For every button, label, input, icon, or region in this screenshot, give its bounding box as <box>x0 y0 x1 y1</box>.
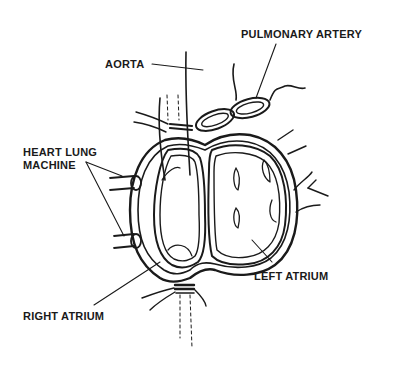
label-aorta: AORTA <box>105 58 144 70</box>
left-atrium-chamber <box>208 145 286 264</box>
label-heart-lung-line2: MACHINE <box>23 159 76 171</box>
label-pulmonary-artery: PULMONARY ARTERY <box>241 28 362 40</box>
heart-diagram: PULMONARY ARTERY AORTA HEART LUNG MACHIN… <box>0 0 398 366</box>
pulmonary-artery-rings <box>193 64 305 135</box>
leader-lines <box>86 44 276 305</box>
right-atrium-chamber <box>154 149 205 267</box>
aorta-vessel <box>159 52 192 180</box>
label-heart-lung-line1: HEART LUNG <box>23 146 97 158</box>
upper-left-vessels <box>134 112 168 132</box>
label-left-atrium: LEFT ATRIUM <box>254 270 328 282</box>
heart-lung-cannulas <box>110 176 141 248</box>
label-right-atrium: RIGHT ATRIUM <box>23 310 104 322</box>
inferior-vena-cava <box>142 285 206 348</box>
